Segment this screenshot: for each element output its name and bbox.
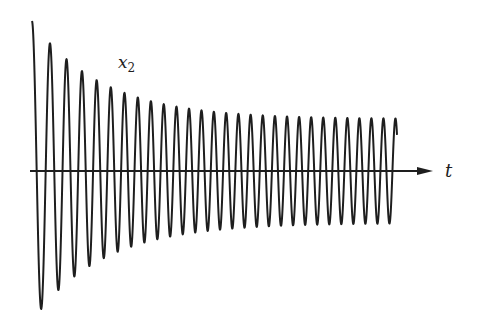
x-axis-label: t <box>445 160 452 181</box>
series-label-x2: x2 <box>118 52 135 75</box>
series-x2-line <box>32 21 397 309</box>
series-label-main: x <box>118 52 128 72</box>
series-label-subscript: 2 <box>128 61 136 75</box>
x-axis-arrow-icon <box>417 167 433 175</box>
plot-area <box>0 0 481 329</box>
